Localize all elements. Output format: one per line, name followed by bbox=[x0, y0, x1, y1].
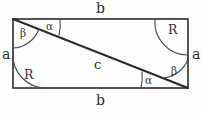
angle-label-alpha-top: α bbox=[46, 21, 53, 32]
side-label-bottom: b bbox=[96, 93, 105, 107]
right-angle-label-top-right: R bbox=[168, 24, 177, 37]
side-label-top: b bbox=[96, 1, 105, 15]
angle-arc-alpha-top bbox=[59, 19, 60, 35]
angle-label-beta-bottom: β bbox=[171, 66, 177, 77]
side-label-left: a bbox=[2, 47, 10, 61]
diagonal-label: c bbox=[94, 58, 101, 71]
side-label-right: a bbox=[192, 47, 200, 61]
angle-arc-alpha-bottom bbox=[141, 72, 142, 88]
rectangle-diagonal-figure: b b a a c α β α β R R bbox=[0, 0, 202, 114]
angle-label-beta-top: β bbox=[20, 28, 26, 39]
right-angle-label-bottom-left: R bbox=[24, 69, 33, 82]
angle-label-alpha-bottom: α bbox=[145, 75, 152, 86]
